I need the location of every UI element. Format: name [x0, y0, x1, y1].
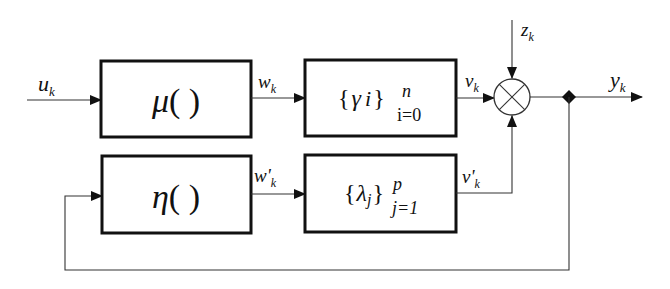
label-w-k: wk	[258, 71, 277, 96]
label-v-k: vk	[465, 70, 479, 95]
svg-text:i=0: i=0	[397, 105, 421, 125]
label-v-prime-k: v'k	[462, 166, 481, 191]
block-mu: μ( )	[101, 61, 251, 137]
label-w-prime-k: w'k	[254, 165, 277, 190]
label-z-k: zk	[520, 19, 534, 44]
block-gamma: {γi} n i=0	[305, 60, 456, 136]
block-eta: η( )	[102, 156, 251, 233]
svg-text:n: n	[402, 81, 411, 101]
svg-text:η( ): η( )	[152, 178, 200, 216]
svg-text:{λj}: {λj}	[344, 180, 384, 209]
block-lambda: {λj} p j=1	[305, 155, 456, 232]
multiplier-junction	[494, 79, 530, 115]
svg-text:μ( ): μ( )	[151, 82, 200, 120]
svg-text:j=1: j=1	[390, 198, 418, 218]
block-diagram: uk μ( ) wk {γi} n i=0 vk zk yk	[0, 0, 670, 289]
label-y-k: yk	[608, 67, 626, 95]
svg-text:p: p	[391, 174, 402, 194]
label-u-k: uk	[38, 71, 55, 99]
